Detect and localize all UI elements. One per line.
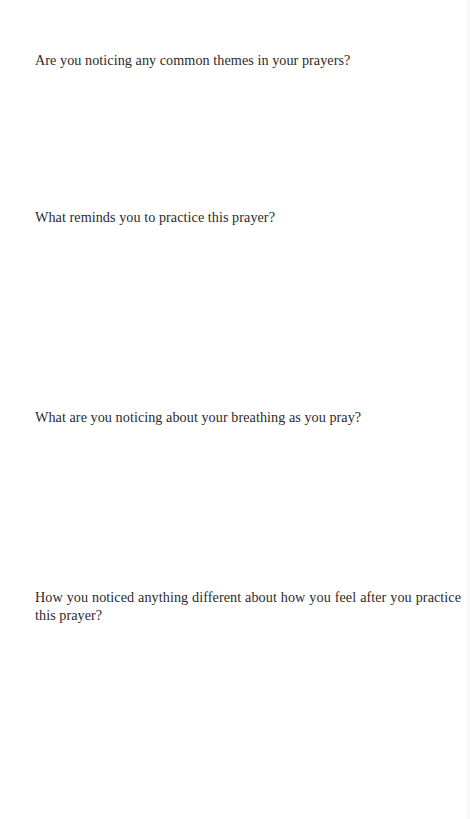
answer-space-breathing: [35, 432, 461, 580]
question-reminders: What reminds you to practice this prayer…: [35, 208, 461, 226]
answer-space-feelings-after: [35, 630, 461, 810]
page-edge-shadow: [464, 0, 470, 819]
answer-space-reminders: [35, 232, 461, 400]
question-breathing: What are you noticing about your breathi…: [35, 408, 461, 426]
question-common-themes: Are you noticing any common themes in yo…: [35, 51, 461, 69]
question-feelings-after: How you noticed anything different about…: [35, 588, 461, 624]
worksheet-page: Are you noticing any common themes in yo…: [0, 0, 470, 819]
answer-space-common-themes: [35, 75, 461, 200]
